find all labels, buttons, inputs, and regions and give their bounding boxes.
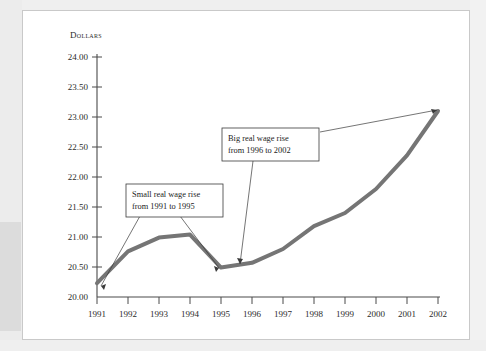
y-tick-label: 23.00 (68, 112, 89, 122)
y-tick-label: 20.00 (68, 292, 89, 302)
x-tick-label: 2001 (398, 309, 416, 319)
y-tick-label: 22.00 (68, 172, 89, 182)
y-tick-label: 24.00 (68, 52, 89, 62)
leader-line-2002 (320, 110, 437, 132)
leader-line-1995 (180, 216, 219, 268)
line-chart: Dollars 24.00 23.50 23.00 22.50 22.00 21… (0, 0, 486, 351)
y-tick-label: 22.50 (68, 142, 89, 152)
x-tick-label: 1997 (274, 309, 293, 319)
chart-page: Dollars 24.00 23.50 23.00 22.50 22.00 21… (0, 0, 486, 351)
x-tick-label: 1998 (305, 309, 324, 319)
y-tick-label: 23.50 (68, 82, 89, 92)
x-tick-label: 1994 (181, 309, 200, 319)
annotation-line-1: Small real wage rise (132, 190, 200, 199)
x-tick-label: 1993 (150, 309, 169, 319)
annotation-box-big-rise (222, 128, 319, 161)
x-axis-ticks: 1991 1992 1993 1994 1995 1996 1997 1998 … (88, 297, 447, 319)
x-tick-label: 2000 (367, 309, 386, 319)
y-tick-label: 21.50 (68, 202, 89, 212)
y-tick-label: 21.00 (68, 232, 89, 242)
x-tick-label: 1992 (119, 309, 137, 319)
x-tick-label: 1996 (243, 309, 262, 319)
y-axis-title: Dollars (70, 30, 102, 40)
annotation-line-1: Big real wage rise (228, 134, 289, 143)
x-tick-label: 1999 (336, 309, 355, 319)
x-tick-label: 1995 (212, 309, 231, 319)
leader-line-1996 (240, 161, 253, 264)
annotation-line-2: from 1996 to 2002 (228, 146, 291, 155)
annotation-line-2: from 1991 to 1995 (132, 202, 195, 211)
annotation-box-small-rise (126, 184, 223, 217)
x-tick-label: 2002 (429, 309, 447, 319)
leader-line-1991 (101, 216, 140, 286)
x-tick-label: 1991 (88, 309, 106, 319)
y-tick-label: 20.50 (68, 262, 89, 272)
annotation-big-rise: Big real wage rise from 1996 to 2002 (222, 109, 437, 264)
